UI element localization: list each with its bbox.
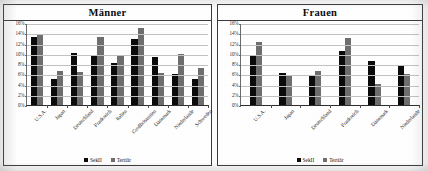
y-tickmark [239,65,241,66]
legend-swatch-tertiaer-icon [111,158,115,162]
y-tickmark [25,86,27,87]
bar-tertiaer [286,76,292,105]
x-label-slot: Großbritannien [127,106,147,163]
gridline [241,65,419,66]
legend-item-sekii: SekII [84,158,102,163]
y-tickmark [25,65,27,66]
gridline [27,45,208,46]
y-tick-label: 0% [232,103,239,108]
x-axis-labels-frauen: U.S.A.JapanDeutschlandFrankreichDänemark… [240,106,419,163]
y-tickmark [25,96,27,97]
legend-frauen: SekII Tertiär [218,158,422,163]
x-axis-labels-maenner: U.S.A.JapanDeutschlandFrankreichItalienG… [26,106,208,163]
y-tickmark [239,45,241,46]
legend-item-tertiaer: Tertiär [111,158,131,163]
y-tick-label: 2% [18,93,25,98]
legend-label-tertiaer: Tertiär [117,158,131,163]
gridline [27,55,208,56]
y-tick-label: 6% [18,73,25,78]
plot-wrapper-maenner: 0%2%4%6%8%10%12%14%16% [7,24,208,106]
y-tick-label: 4% [18,83,25,88]
bar-tertiaer [404,74,410,105]
gridline [27,65,208,66]
y-tick-label: 12% [15,42,24,47]
gridline [241,86,419,87]
y-axis-maenner: 0%2%4%6%8%10%12%14%16% [7,24,26,106]
legend-maenner: SekII Tertiär [4,158,211,163]
y-tick-label: 12% [229,42,238,47]
x-axis-label: Niederlande [399,108,421,130]
legend-label-sekii: SekII [303,158,315,163]
y-tick-label: 14% [229,32,238,37]
gridline [27,75,208,76]
x-label-slot: Frankreich [87,106,107,163]
gridline [241,45,419,46]
x-tickmark [419,105,420,108]
bar-tertiaer [77,72,83,105]
x-axis-label: Frankreich [340,108,360,128]
x-label-slot: Niederlande [389,106,419,163]
plot-maenner [26,24,208,106]
y-tickmark [25,55,27,56]
chart-panel-maenner: Männer 0%2%4%6%8%10%12%14%16% U.S.A.Japa… [3,4,212,166]
y-tickmark [239,55,241,56]
gridline [27,86,208,87]
x-label-slot: U.S.A. [240,106,270,163]
gridline [27,34,208,35]
gridline [241,75,419,76]
chart-title-frauen: Frauen [218,5,422,21]
x-axis-label: U.S.A. [252,108,266,122]
y-tick-label: 10% [15,52,24,57]
gridline [27,96,208,97]
x-label-slot: Japan [270,106,300,163]
legend-label-tertiaer: Tertiär [329,158,343,163]
y-tick-label: 16% [229,21,238,26]
gridline [241,96,419,97]
x-axis-label: Japan [54,108,67,121]
y-tick-label: 2% [232,93,239,98]
y-tickmark [25,75,27,76]
gridline [241,24,419,25]
y-tickmark [239,34,241,35]
x-label-slot: Frankreich [329,106,359,163]
y-tickmark [25,45,27,46]
x-label-slot: Niederlande [168,106,188,163]
chart-area-frauen: 0%2%4%6%8%10%12%14%16% U.S.A.JapanDeutsc… [218,21,422,165]
bar-tertiaer [375,84,381,105]
x-axis-label: Deutschland [309,108,332,131]
x-label-slot: Italien [107,106,127,163]
gridline [241,55,419,56]
y-tickmark [239,24,241,25]
y-tickmark [25,24,27,25]
figure-root: Männer 0%2%4%6%8%10%12%14%16% U.S.A.Japa… [0,0,428,171]
x-label-slot: U.S.A. [26,106,46,163]
y-tick-label: 6% [232,73,239,78]
plot-wrapper-frauen: 0%2%4%6%8%10%12%14%16% [221,24,419,106]
y-tick-label: 8% [232,62,239,67]
chart-title-maenner: Männer [4,5,211,21]
y-tick-label: 4% [232,83,239,88]
legend-swatch-sekii-icon [297,158,301,162]
x-axis-label: Schweden [193,108,212,127]
x-label-slot: Deutschland [66,106,86,163]
x-label-slot: Dänemark [147,106,167,163]
y-axis-frauen: 0%2%4%6%8%10%12%14%16% [221,24,240,106]
x-axis-label: Dänemark [370,108,390,128]
y-tickmark [239,96,241,97]
y-tick-label: 16% [15,21,24,26]
y-tickmark [239,86,241,87]
x-label-slot: Schweden [188,106,208,163]
y-tick-label: 0% [18,103,25,108]
legend-item-sekii: SekII [297,158,315,163]
x-label-slot: Japan [46,106,66,163]
legend-swatch-tertiaer-icon [323,158,327,162]
y-tick-label: 8% [18,62,25,67]
chart-area-maenner: 0%2%4%6%8%10%12%14%16% U.S.A.JapanDeutsc… [4,21,211,165]
y-tick-label: 14% [15,32,24,37]
legend-swatch-sekii-icon [84,158,88,162]
legend-item-tertiaer: Tertiär [323,158,343,163]
y-tickmark [239,75,241,76]
bar-tertiaer [178,54,184,105]
bar-tertiaer [138,28,144,105]
gridline [27,24,208,25]
